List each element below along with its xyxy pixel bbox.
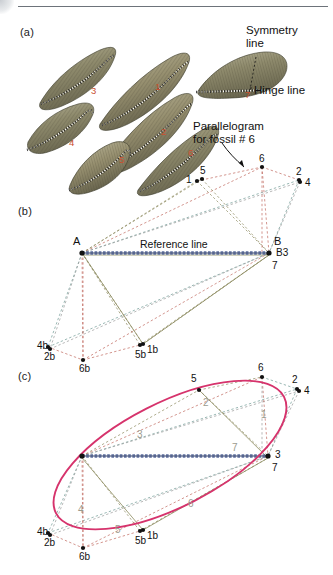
edge-label-c-3: 3	[137, 430, 143, 440]
fossil-number-7: 7	[245, 90, 250, 100]
point-label-c-2: 2	[292, 375, 298, 385]
fossil-number-1: 1	[155, 82, 160, 92]
point-label-c-2b: 2b	[44, 538, 55, 548]
fossil-number-5: 5	[119, 155, 124, 165]
point-label-c-7: 7	[272, 463, 278, 473]
point-label-b-7: 7	[272, 261, 278, 271]
anchor-label-A: A	[73, 236, 80, 246]
symmetry-line-label-2: line	[246, 37, 264, 50]
point-label-c-5b: 5b	[135, 536, 146, 546]
point-label-b-4: 4	[305, 178, 311, 188]
point-label-b-5: 5	[200, 166, 206, 176]
parallelogram-label-1: Parallelogram	[193, 120, 264, 133]
point-label-c-3: 3	[275, 450, 281, 460]
point-label-b-4b: 4b	[37, 341, 48, 351]
edge-label-c-6: 6	[188, 499, 194, 509]
point-label-c-1b: 1b	[147, 531, 158, 541]
point-label-c-6b: 6b	[79, 552, 90, 562]
point-label-b-5b: 5b	[135, 350, 146, 360]
point-label-b-2b: 2b	[44, 352, 55, 362]
hinge-line-label: Hinge line	[254, 84, 305, 97]
point-label-c-6: 6	[258, 363, 264, 373]
point-label-b-6b: 6b	[79, 364, 90, 374]
point-label-c-4b: 4b	[37, 527, 48, 537]
landmark-points-c	[46, 375, 301, 550]
fossil-number-3: 3	[91, 86, 96, 96]
edge-label-c-1: 1	[261, 410, 267, 420]
edge-label-c-2: 2	[203, 398, 209, 408]
point-label-b-1b: 1b	[147, 345, 158, 355]
fossil-number-6: 6	[188, 148, 193, 158]
edge-label-c-7: 7	[232, 443, 238, 453]
fossil-number-4: 4	[69, 138, 74, 148]
edge-label-c-5: 5	[115, 525, 121, 535]
edge-label-c-4: 4	[78, 505, 84, 515]
panel-label-b: (b)	[18, 205, 32, 217]
panel-label-a: (a)	[20, 26, 34, 38]
point-label-b-3: B3	[276, 248, 288, 258]
reference-line-label-b: Reference line	[140, 238, 208, 250]
point-label-b-1: 1	[186, 175, 192, 185]
point-label-b-6: 6	[259, 154, 265, 164]
point-label-c-5: 5	[191, 374, 197, 384]
fossil-number-2: 2	[161, 127, 166, 137]
point-label-c-4: 4	[304, 386, 310, 396]
figure-root: (a) (b) (c) Symmetry line Hinge line Par…	[0, 0, 333, 575]
parallelogram-label-2: for fossil # 6	[193, 133, 255, 146]
panel-label-c: (c)	[18, 370, 31, 382]
symmetry-line-label: Symmetry	[246, 24, 298, 37]
point-label-b-2: 2	[296, 167, 302, 177]
anchor-label-B: B	[274, 236, 281, 246]
